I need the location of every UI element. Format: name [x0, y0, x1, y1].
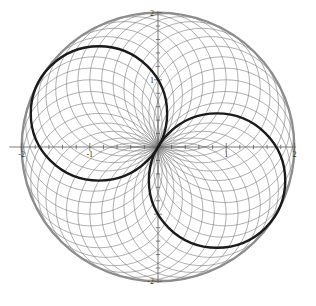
- plot-canvas: -2-11221-2: [0, 0, 316, 306]
- polar-circle-family-figure: -2-11221-2: [0, 0, 316, 306]
- x-tick-label: 2: [292, 150, 296, 159]
- y-tick-label: -2: [147, 277, 154, 286]
- x-tick-label: 1: [224, 150, 228, 159]
- y-tick-label: 1: [150, 76, 154, 85]
- x-tick-label: -1: [86, 150, 93, 159]
- y-tick-label: 2: [150, 9, 154, 18]
- x-tick-label: -2: [18, 150, 25, 159]
